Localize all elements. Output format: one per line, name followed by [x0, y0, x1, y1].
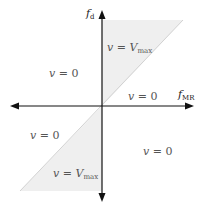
arrow-right-icon [185, 103, 194, 110]
region-label-lower-right: v = 0 [143, 146, 172, 157]
region-label-lower-shaded: v = Vmax [53, 168, 98, 181]
arrow-up-icon [99, 10, 106, 19]
region-label-upper-left: v = 0 [49, 68, 78, 79]
region-label-upper-shaded: v = Vmax [107, 42, 152, 55]
vertical-axis-label: fd [86, 8, 95, 21]
arrow-down-icon [99, 193, 106, 202]
arrow-left-icon [10, 103, 19, 110]
region-diagram [0, 0, 201, 207]
horizontal-axis-label: fMR [178, 89, 195, 102]
region-label-upper-right: v = 0 [128, 91, 157, 102]
region-label-lower-left: v = 0 [30, 130, 59, 141]
